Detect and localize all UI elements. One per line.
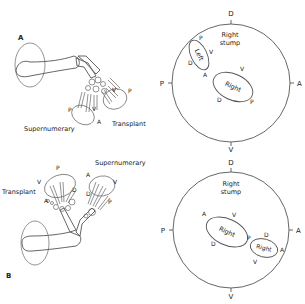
bottom-stump-title-1: Right xyxy=(222,180,240,188)
top-stump-title-2: stump xyxy=(220,39,241,47)
top-compass-d: D xyxy=(228,10,233,18)
top-right-p: P xyxy=(250,98,254,105)
panel-a-v2-label: V xyxy=(112,86,117,93)
bottom-big-ellipse-label: Right xyxy=(218,225,237,240)
bottom-stump-title-2: stump xyxy=(221,188,242,196)
bottom-big-a: A xyxy=(202,210,207,217)
bottom-compass-d: D xyxy=(228,159,233,167)
figure-canvas: A P V A V P Supernumerary Transplant D V… xyxy=(0,0,305,304)
top-left-p: P xyxy=(199,34,203,41)
bottom-big-v: V xyxy=(232,211,237,218)
top-left-d: D xyxy=(188,59,193,66)
panel-b-label: B xyxy=(6,272,11,280)
panel-a-p-label: P xyxy=(68,106,72,113)
panel-a-label: A xyxy=(18,34,24,42)
panel-a-p2-label: P xyxy=(128,87,132,94)
bottom-small-v: V xyxy=(253,258,258,265)
top-left-v: V xyxy=(209,48,214,55)
bottom-compass-p: P xyxy=(161,227,165,235)
bottom-big-p: P xyxy=(247,234,251,241)
top-stump-title-1: Right xyxy=(221,31,239,39)
panel-b-p-label: P xyxy=(56,164,60,171)
panel-b-d2-label: D xyxy=(86,190,91,197)
top-compass-v: V xyxy=(229,146,234,154)
top-left-ellipse-label: Left xyxy=(193,48,206,63)
top-right-ellipse-label: Right xyxy=(224,80,243,95)
top-compass-p: P xyxy=(160,80,164,88)
bottom-small-ellipse-label: Right xyxy=(255,242,273,254)
panel-b-limb-drawing xyxy=(21,170,117,265)
top-right-v: V xyxy=(240,65,245,72)
top-left-a: A xyxy=(203,71,208,78)
bottom-big-d: D xyxy=(211,240,216,247)
top-right-d: D xyxy=(217,96,222,103)
panel-a-supernumerary-label: Supernumerary xyxy=(24,125,75,133)
panel-b-v-label: V xyxy=(37,178,42,185)
bottom-small-d: D xyxy=(264,231,269,238)
panel-a-v-label: V xyxy=(92,105,97,112)
panel-b-d-label: D xyxy=(72,186,77,193)
panel-b-v2-label: V xyxy=(113,178,118,185)
top-compass-a: A xyxy=(297,80,302,88)
panel-a-transplant-label: Transplant xyxy=(111,120,146,128)
bottom-compass-v: V xyxy=(229,293,234,301)
panel-a-a-label: A xyxy=(97,118,102,125)
panel-b-a2-label: A xyxy=(86,171,91,178)
bottom-compass-a: A xyxy=(296,227,301,235)
panel-b-transplant-label: Transplant xyxy=(1,188,36,196)
panel-b-a-label: A xyxy=(44,197,49,204)
panel-b-supernumerary-label: Supernumerary xyxy=(95,159,146,167)
panel-b-p2-label: P xyxy=(108,198,112,205)
